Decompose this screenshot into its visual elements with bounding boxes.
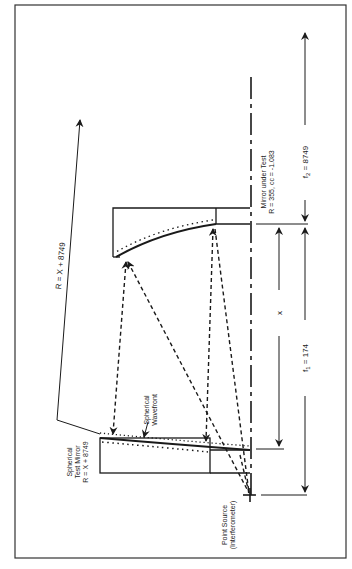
svg-text:R = X + 8749: R = X + 8749 [82, 441, 89, 482]
svg-text:Mirror under Test: Mirror under Test [260, 156, 267, 209]
svg-text:(Interferometer): (Interferometer) [229, 501, 237, 550]
f1-value: = 174 [301, 343, 310, 366]
spherical-test-mirror-label: Spherical Test Mirror R = X + 8749 [66, 441, 89, 482]
spherical-wavefront-label: Spherical Wavefront [143, 394, 158, 437]
svg-text:Wavefront: Wavefront [151, 394, 158, 426]
radius-dimension: R = X + 8749 [54, 120, 100, 434]
point-source-marker [243, 488, 256, 502]
test-mirror-hatching [102, 442, 208, 452]
f2-value: = 8749 [301, 145, 310, 172]
x-dimension-label: x [275, 311, 284, 315]
x-dimension: x [256, 224, 308, 449]
mirror-under-test-label: Mirror under Test R = 355, cc = -1.083 [260, 150, 275, 214]
svg-text:Point Source: Point Source [221, 505, 228, 545]
f2-dimension: f2 = 8749 [301, 33, 311, 221]
mirror-under-test [113, 208, 250, 257]
f1-dimension: f1 = 174 [261, 228, 311, 495]
svg-text:Spherical: Spherical [143, 395, 151, 425]
point-source-label: Point Source (Interferometer) [221, 501, 237, 550]
light-rays [113, 229, 249, 493]
svg-text:Test Mirror: Test Mirror [74, 445, 81, 479]
svg-text:f2 = 8749: f2 = 8749 [301, 145, 311, 178]
spherical-test-mirror [100, 438, 250, 473]
svg-text:f1 = 174: f1 = 174 [301, 343, 311, 372]
optical-test-setup-diagram: R = X + 8749 x f1 = 174 f2 = 8749 Mirror… [0, 0, 352, 569]
svg-text:R = 355, cc = -1.083: R = 355, cc = -1.083 [268, 150, 275, 214]
svg-text:Spherical: Spherical [66, 447, 74, 477]
